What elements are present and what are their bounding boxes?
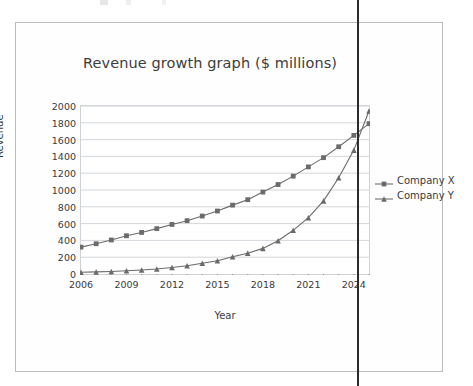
data-point-marker-triangle — [336, 175, 342, 181]
data-point-marker-square — [109, 238, 114, 243]
data-point-marker-triangle — [366, 108, 370, 114]
data-point-marker-square — [230, 203, 235, 208]
data-point-marker-square — [94, 241, 99, 246]
y-axis-tick-label: 1600 — [36, 134, 76, 145]
y-axis-tick-labels: 2000180016001400120010008006004002000 — [32, 105, 76, 275]
data-point-marker-square — [215, 209, 220, 214]
legend-item-company-y[interactable]: Company Y — [374, 188, 470, 203]
y-axis-title: Revenue — [0, 114, 5, 158]
data-point-marker-square — [306, 165, 311, 170]
data-point-marker-square — [351, 133, 356, 138]
data-point-marker-triangle — [321, 198, 327, 204]
scan-artifact — [100, 0, 320, 5]
legend-triangle-icon — [374, 190, 394, 202]
data-point-marker-square — [154, 226, 159, 231]
legend-item-company-x[interactable]: Company X — [374, 173, 470, 188]
x-axis-tick-label: 2006 — [69, 279, 93, 290]
legend-label: Company X — [397, 175, 455, 186]
y-axis-tick-label: 1800 — [36, 117, 76, 128]
x-axis-tick-label: 2009 — [114, 279, 138, 290]
chart-legend: Company XCompany Y — [374, 173, 470, 203]
data-point-marker-square — [139, 230, 144, 235]
vertical-rule-line — [357, 0, 359, 386]
chart-title: Revenue growth graph ($ millions) — [60, 55, 360, 71]
x-axis-tick-label: 2024 — [342, 279, 366, 290]
chart-plot-wrapper — [80, 105, 370, 275]
y-axis-tick-label: 800 — [36, 201, 76, 212]
y-axis-tick-label: 1200 — [36, 168, 76, 179]
y-axis-tick-label: 2000 — [36, 101, 76, 112]
x-axis-tick-label: 2021 — [296, 279, 320, 290]
data-point-marker-triangle — [260, 246, 266, 252]
x-axis-tick-label: 2012 — [160, 279, 184, 290]
series-line — [81, 124, 369, 247]
y-axis-tick-label: 400 — [36, 235, 76, 246]
legend-label: Company Y — [397, 190, 454, 201]
legend-square-icon — [374, 175, 394, 187]
data-point-marker-square — [185, 218, 190, 223]
x-axis-title: Year — [80, 310, 370, 321]
y-axis-tick-label: 200 — [36, 252, 76, 263]
data-point-marker-square — [382, 181, 387, 186]
data-point-marker-square — [80, 245, 83, 250]
y-axis-tick-label: 1000 — [36, 185, 76, 196]
data-point-marker-square — [124, 233, 129, 238]
data-point-marker-square — [321, 155, 326, 160]
y-axis-tick-label: 1400 — [36, 151, 76, 162]
x-axis-tick-label: 2015 — [205, 279, 229, 290]
data-point-marker-square — [200, 214, 205, 219]
data-point-marker-square — [276, 182, 281, 187]
chart-svg — [80, 105, 370, 275]
data-point-marker-square — [336, 144, 341, 149]
x-axis-tick-label: 2018 — [251, 279, 275, 290]
data-point-marker-square — [367, 121, 370, 126]
x-axis-tick-labels: 2006200920122015201820212024 — [80, 279, 370, 295]
data-point-marker-square — [291, 174, 296, 179]
series-line — [81, 111, 369, 272]
series-company-y — [80, 108, 370, 275]
y-axis-tick-label: 0 — [36, 269, 76, 280]
y-axis-tick-label: 600 — [36, 218, 76, 229]
series-company-x — [80, 121, 370, 249]
data-point-marker-triangle — [351, 147, 357, 153]
data-point-marker-square — [260, 190, 265, 195]
data-point-marker-square — [170, 222, 175, 227]
data-point-marker-square — [245, 197, 250, 202]
